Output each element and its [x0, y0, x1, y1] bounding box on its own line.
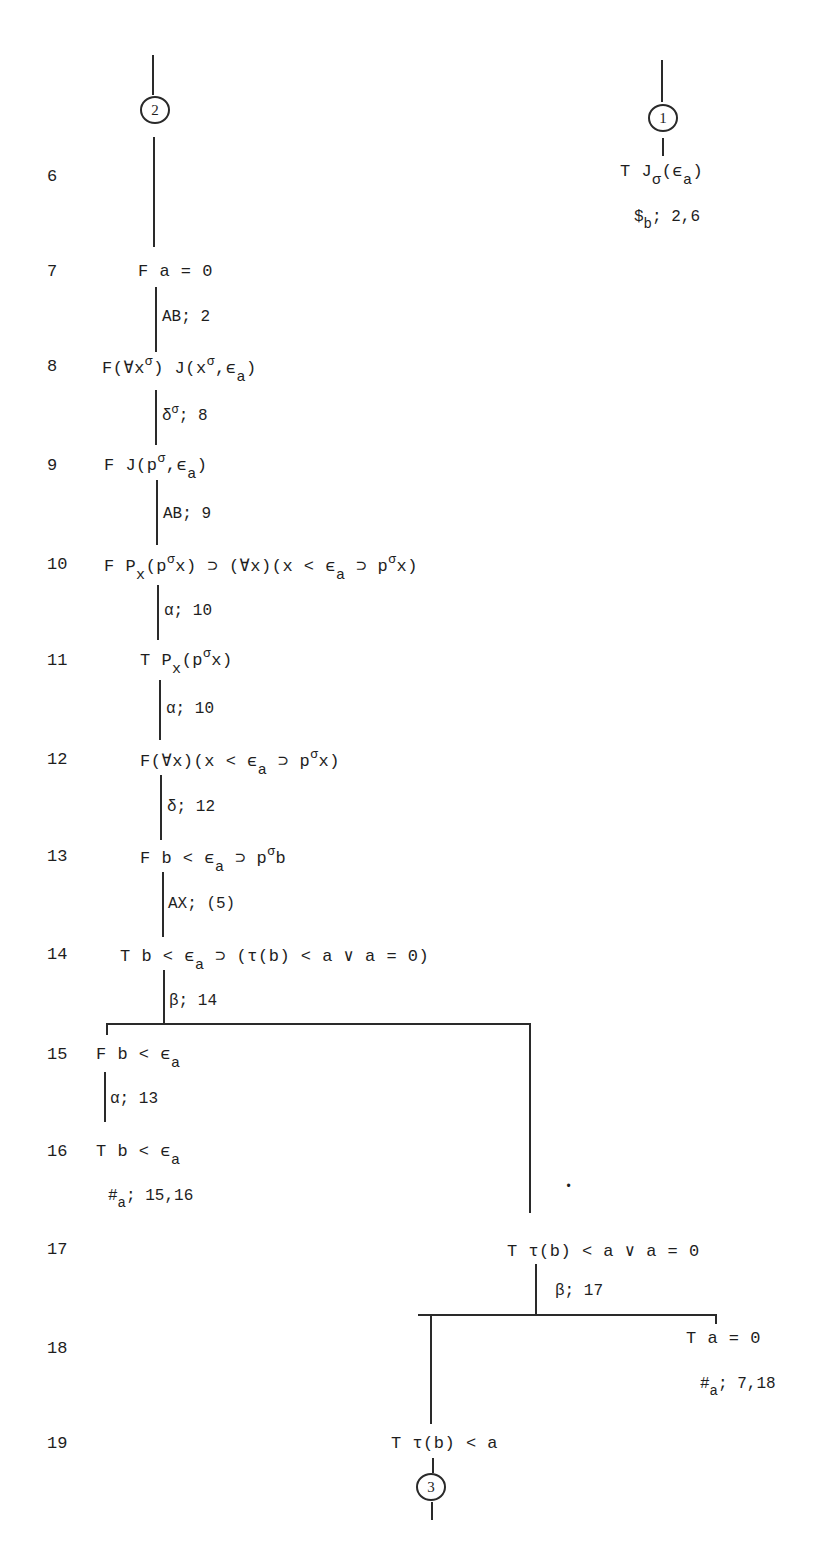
branch-line — [157, 585, 159, 640]
formula-line-12: F(∀x)(x < ϵa ⊃ pσx) — [140, 750, 340, 771]
formula-line-17: T τ(b) < a ∨ a = 0 — [507, 1240, 700, 1261]
line-number: 19 — [47, 1434, 67, 1453]
branch-line — [156, 480, 158, 545]
rule-line-10: α; 10 — [164, 602, 212, 620]
line-number: 8 — [47, 357, 57, 376]
branch-line — [529, 1023, 531, 1213]
formula-line-18: T a = 0 — [686, 1329, 761, 1348]
rule-line-17: β; 17 — [555, 1282, 603, 1300]
formula-line-9: F J(pσ,ϵa) — [104, 456, 207, 475]
line-number: 12 — [47, 750, 67, 769]
rule-line-13: AX; (5) — [168, 895, 235, 913]
proof-tree-page: 2 1 T Jσ(ϵa) $b; 2,6 6 7 8 9 10 11 12 13… — [0, 0, 829, 1543]
branch-line — [152, 55, 154, 95]
branch-line — [104, 1072, 106, 1122]
line-number: 10 — [47, 555, 67, 574]
line-number: 7 — [47, 262, 57, 281]
line-number: 9 — [47, 456, 57, 475]
branch-line — [153, 137, 155, 247]
branch-line — [535, 1264, 537, 1316]
line-number: 13 — [47, 847, 67, 866]
line-number: 17 — [47, 1240, 67, 1259]
branch-line — [155, 287, 157, 352]
connector-circle-3: 3 — [416, 1473, 446, 1501]
branch-line — [432, 1458, 434, 1473]
line-number: 14 — [47, 945, 67, 964]
rule-line-16-closed: #a; 15,16 — [108, 1187, 193, 1205]
branch-split-line — [106, 1023, 530, 1025]
branch-line — [162, 872, 164, 937]
branch-line — [163, 970, 165, 1025]
branch-line — [155, 390, 157, 445]
rule-line-9: AB; 9 — [163, 505, 211, 523]
formula-line-13: F b < ϵa ⊃ pσb — [140, 847, 286, 868]
line-number: 18 — [47, 1339, 67, 1358]
rule-line-7: AB; 2 — [162, 308, 210, 326]
line-number: 16 — [47, 1142, 67, 1161]
rule-line-18-closed: #a; 7,18 — [700, 1375, 776, 1393]
rule-line-14: β; 14 — [169, 992, 217, 1010]
stray-mark: • — [565, 1180, 572, 1194]
formula-line-14: T b < ϵa ⊃ (τ(b) < a ∨ a = 0) — [120, 945, 429, 966]
branch-line — [106, 1023, 108, 1035]
formula-line-19: T τ(b) < a — [391, 1434, 498, 1453]
rule-right-top: $b; 2,6 — [634, 208, 700, 226]
formula-line-11: T Px(pσx) — [140, 651, 233, 670]
formula-line-8: F(∀xσ) J(xσ,ϵa) — [102, 357, 257, 378]
rule-line-15: α; 13 — [110, 1090, 158, 1108]
branch-line — [661, 60, 663, 102]
branch-line — [430, 1314, 432, 1424]
rule-line-11: α; 10 — [166, 700, 214, 718]
branch-split-line — [418, 1314, 716, 1316]
rule-line-8: δσ; 8 — [162, 407, 208, 425]
line-number: 6 — [47, 167, 57, 186]
connector-circle-1: 1 — [648, 104, 678, 132]
formula-right-top: T Jσ(ϵa) — [620, 162, 703, 181]
connector-circle-2: 2 — [140, 96, 170, 124]
branch-line — [662, 138, 664, 156]
line-number: 11 — [47, 651, 67, 670]
branch-line — [715, 1314, 717, 1324]
branch-line — [159, 680, 161, 740]
line-number: 15 — [47, 1045, 67, 1064]
rule-line-12: δ; 12 — [167, 798, 215, 816]
formula-line-7: F a = 0 — [138, 262, 213, 281]
formula-line-10: F Px(pσx) ⊃ (∀x)(x < ϵa ⊃ pσx) — [104, 555, 418, 576]
formula-line-16: T b < ϵa — [96, 1142, 180, 1161]
branch-line — [160, 775, 162, 840]
formula-line-15: F b < ϵa — [96, 1045, 180, 1064]
branch-line — [431, 1502, 433, 1520]
